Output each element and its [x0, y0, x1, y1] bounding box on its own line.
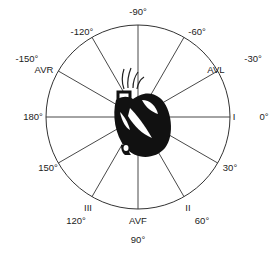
angle-label: 60° [195, 216, 209, 226]
lead-label: AVL [207, 65, 224, 75]
angle-label: 90° [131, 235, 145, 245]
angle-label: 0° [259, 112, 268, 122]
angle-label: -90° [129, 7, 147, 17]
angle-label: 180° [23, 112, 43, 122]
lead-label: III [84, 203, 92, 213]
lead-label: II [185, 203, 190, 213]
lead-label: AVF [129, 216, 147, 226]
lead-label: I [233, 112, 236, 122]
angle-label: -30° [244, 54, 262, 64]
angle-label: -60° [188, 27, 206, 37]
lead-label: AVR [35, 65, 54, 75]
angle-label: 120° [66, 216, 86, 226]
angle-label: 150° [38, 163, 58, 173]
angle-label: -150° [16, 54, 39, 64]
angle-label: 30° [223, 163, 237, 173]
heart-icon [114, 68, 171, 157]
angle-label: -120° [71, 27, 94, 37]
